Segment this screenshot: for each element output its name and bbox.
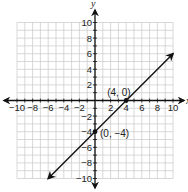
x-tick-label: −8 bbox=[27, 102, 38, 113]
x-tick-label: −10 bbox=[9, 102, 25, 113]
y-axis-label: y bbox=[90, 0, 96, 9]
y-tick-label: 4 bbox=[87, 64, 92, 75]
y-tick-label: −8 bbox=[81, 157, 92, 168]
x-tick-label: 6 bbox=[139, 102, 144, 113]
x-tick-label: 2 bbox=[108, 102, 113, 113]
y-tick-label: 10 bbox=[81, 17, 92, 28]
x-tick-label: 8 bbox=[155, 102, 160, 113]
coordinate-plane-chart: xy −10−8−6−4−2246810108642−2−4−6−8−10 (4… bbox=[0, 0, 188, 192]
y-tick-label: −2 bbox=[81, 111, 92, 122]
y-tick-label: 6 bbox=[87, 48, 92, 59]
y-tick-label: 2 bbox=[87, 79, 92, 90]
y-tick-label: −10 bbox=[76, 173, 92, 184]
axes: xy bbox=[4, 0, 188, 188]
x-tick-label: −4 bbox=[58, 102, 69, 113]
x-tick-label: −6 bbox=[43, 102, 54, 113]
point-label: (4, 0) bbox=[107, 87, 130, 98]
x-axis-label: x bbox=[185, 95, 188, 106]
point-label: (0, −4) bbox=[100, 128, 129, 139]
data-point bbox=[93, 129, 98, 134]
labeled-points: (4, 0)(0, −4) bbox=[93, 87, 131, 139]
data-point bbox=[124, 98, 129, 103]
y-tick-label: 8 bbox=[87, 33, 92, 44]
x-tick-label: 10 bbox=[168, 102, 179, 113]
